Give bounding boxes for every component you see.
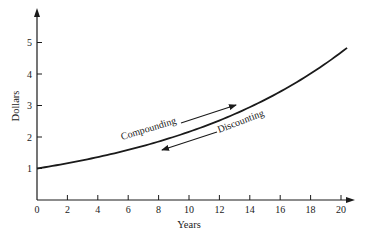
- x-tick-label: 2: [65, 204, 70, 215]
- discounting-annotation: Discounting: [162, 107, 265, 150]
- x-axis-ticks: 02468101214161820: [35, 195, 347, 215]
- x-tick-label: 18: [306, 204, 316, 215]
- x-axis-arrow-icon: [346, 197, 355, 203]
- y-tick-label: 2: [27, 132, 32, 143]
- x-tick-label: 8: [156, 204, 161, 215]
- y-tick-label: 1: [27, 163, 32, 174]
- discounting-arrow-icon: [162, 132, 217, 150]
- x-tick-label: 20: [336, 204, 346, 215]
- y-axis-arrow-icon: [34, 8, 40, 17]
- y-axis-ticks: 12345: [27, 37, 42, 174]
- x-axis-title: Years: [177, 219, 200, 230]
- growth-curve: [37, 48, 347, 169]
- y-axis: [34, 8, 40, 200]
- y-axis-title: Dollars: [10, 91, 21, 122]
- x-tick-label: 14: [245, 204, 255, 215]
- x-tick-label: 4: [95, 204, 100, 215]
- x-tick-label: 6: [126, 204, 131, 215]
- x-tick-label: 12: [214, 204, 224, 215]
- x-tick-label: 0: [35, 204, 40, 215]
- x-axis: [37, 197, 355, 203]
- y-tick-label: 3: [27, 100, 32, 111]
- y-tick-label: 5: [27, 37, 32, 48]
- x-tick-label: 16: [275, 204, 285, 215]
- compounding-discounting-chart: 02468101214161820 12345 Compounding Disc…: [0, 0, 366, 238]
- y-tick-label: 4: [27, 69, 32, 80]
- x-tick-label: 10: [184, 204, 194, 215]
